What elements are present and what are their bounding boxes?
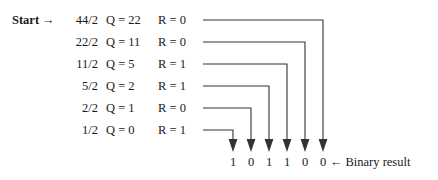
connector-line-row-3	[203, 64, 287, 139]
binary-conversion-diagram: Start→ 44/2 Q = 22 R = 0 22/2 Q = 11 R =…	[0, 0, 438, 180]
arrowhead-bit-5	[319, 139, 328, 152]
arrowhead-bit-0	[229, 139, 238, 152]
connector-line-row-4	[203, 86, 269, 139]
arrowhead-bit-4	[301, 139, 310, 152]
binary-result-label: ←Binary result	[330, 155, 410, 169]
result-bit: 0	[244, 155, 258, 169]
arrowhead-bit-2	[265, 139, 274, 152]
result-bit: 1	[262, 155, 276, 169]
result-bit: 1	[226, 155, 240, 169]
connector-line-row-5	[203, 108, 251, 139]
connector-line-row-6	[203, 130, 233, 139]
connector-lines-layer	[0, 0, 438, 180]
arrowhead-bit-1	[247, 139, 256, 152]
arrowhead-bit-3	[283, 139, 292, 152]
arrowheads-group	[229, 139, 328, 152]
result-bit: 0	[298, 155, 312, 169]
left-arrow-icon: ←	[330, 155, 346, 169]
connector-line-row-2	[203, 42, 305, 139]
result-bit: 0	[316, 155, 330, 169]
binary-result-text: Binary result	[346, 155, 411, 169]
result-bit: 1	[280, 155, 294, 169]
